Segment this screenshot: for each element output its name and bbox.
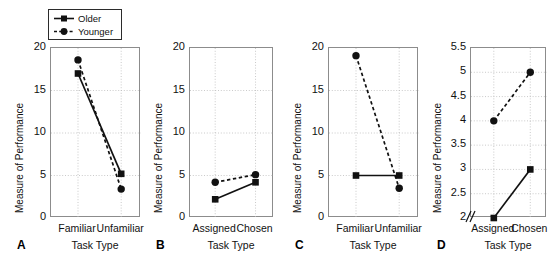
y-axis-tick-label: 20 xyxy=(298,40,324,52)
y-axis-tick-label: 3 xyxy=(440,161,466,173)
square-marker-icon xyxy=(53,13,75,24)
data-point-circle xyxy=(212,179,219,186)
legend: Older Younger xyxy=(48,9,122,40)
y-axis-title: Measure of Performance xyxy=(292,103,303,213)
y-axis-title: Measure of Performance xyxy=(153,103,164,213)
x-axis-tick-label: Unfamiliar xyxy=(365,222,431,234)
series-line xyxy=(356,56,399,189)
x-axis-title: Task Type xyxy=(186,239,276,251)
data-point-circle xyxy=(74,56,81,63)
x-axis-tick-label: Chosen xyxy=(222,222,288,234)
plot-area-d xyxy=(470,47,546,217)
panel-letter-c: C xyxy=(295,238,304,252)
series-older xyxy=(75,70,125,177)
data-point-circle xyxy=(118,185,125,192)
y-axis-tick-label: 5 xyxy=(440,64,466,76)
x-axis-title: Task Type xyxy=(50,239,140,251)
x-axis-title: Task Type xyxy=(463,239,553,251)
y-axis-tick-label: 15 xyxy=(298,83,324,95)
panel-letter-d: D xyxy=(437,238,446,252)
plot-area-b xyxy=(189,47,273,217)
series-younger xyxy=(352,52,403,192)
legend-entry-younger: Younger xyxy=(53,25,117,38)
y-axis-title: Measure of Performance xyxy=(14,103,25,213)
legend-label-older: Older xyxy=(78,13,101,24)
data-point-square xyxy=(118,171,125,178)
data-point-circle xyxy=(490,117,497,124)
series-line xyxy=(215,182,255,199)
data-point-square xyxy=(353,172,360,179)
x-axis-title: Task Type xyxy=(328,239,418,251)
data-point-square xyxy=(252,179,259,186)
x-axis-tick-label: Chosen xyxy=(496,222,559,234)
data-point-square xyxy=(527,166,534,173)
y-axis-tick-label: 20 xyxy=(159,40,185,52)
plot-area-c xyxy=(328,47,418,217)
series-line xyxy=(78,74,121,174)
y-axis-tick-label: 15 xyxy=(159,83,185,95)
y-axis-tick-label: 4.5 xyxy=(440,89,466,101)
circle-marker-icon xyxy=(53,26,75,37)
legend-label-younger: Younger xyxy=(78,26,113,37)
data-point-square xyxy=(396,172,403,179)
data-point-square xyxy=(491,215,498,222)
data-point-circle xyxy=(352,52,359,59)
plot-canvas-c xyxy=(329,48,419,218)
y-axis-tick-label: 4 xyxy=(440,113,466,125)
y-axis-title: Measure of Performance xyxy=(432,103,443,213)
x-axis-tick-label: Unfamiliar xyxy=(87,222,153,234)
plot-canvas-d xyxy=(471,48,547,218)
y-axis-tick-label: 15 xyxy=(20,83,46,95)
panel-letter-a: A xyxy=(17,238,26,252)
y-axis-tick-label: 20 xyxy=(20,40,46,52)
y-axis-tick-label: 2.5 xyxy=(440,186,466,198)
data-point-square xyxy=(75,70,82,77)
panel-letter-b: B xyxy=(156,238,165,252)
data-point-circle xyxy=(396,185,403,192)
legend-entry-older: Older xyxy=(53,12,117,25)
y-axis-tick-label: 3.5 xyxy=(440,137,466,149)
data-point-circle xyxy=(527,69,534,76)
series-older xyxy=(212,179,259,203)
plot-canvas-a xyxy=(51,48,141,218)
plot-area-a xyxy=(50,47,140,217)
data-point-square xyxy=(212,196,219,203)
y-axis-tick-label: 5.5 xyxy=(440,40,466,52)
data-point-circle xyxy=(252,171,259,178)
plot-canvas-b xyxy=(190,48,274,218)
